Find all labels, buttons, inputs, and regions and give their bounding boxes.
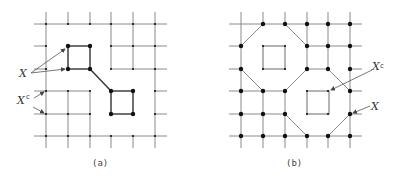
set-x-vertex <box>283 134 287 138</box>
set-x-vertex <box>109 112 113 116</box>
set-x-vertex <box>109 89 113 93</box>
set-x-vertex <box>283 112 287 116</box>
set-x-vertex <box>239 89 243 93</box>
set-x-vertex <box>326 67 330 71</box>
complement-vertex <box>262 68 264 70</box>
figure: X X c (a) <box>0 0 396 177</box>
complement-vertex <box>327 90 329 92</box>
grid-vertex <box>67 113 69 115</box>
grid-vertex <box>110 45 112 47</box>
grid-vertex <box>45 68 47 70</box>
set-x-vertex <box>348 67 352 71</box>
grid-vertex <box>45 135 47 137</box>
grid-vertex <box>89 113 91 115</box>
panel-b-annotations: X c X <box>331 60 384 113</box>
set-x-vertex <box>348 112 352 116</box>
set-x-vertex <box>348 22 352 26</box>
grid-vertex <box>89 135 91 137</box>
set-x-vertex <box>131 112 135 116</box>
grid-vertex <box>132 68 134 70</box>
grid-vertex <box>154 135 156 137</box>
set-x-vertex <box>88 44 92 48</box>
set-x-vertex <box>326 22 330 26</box>
grid-vertex <box>67 90 69 92</box>
panel-b-label-x: X <box>370 100 380 113</box>
grid-vertex <box>110 68 112 70</box>
set-x-vertex <box>261 22 265 26</box>
grid-vertex <box>132 45 134 47</box>
grid-vertex <box>110 23 112 25</box>
grid-vertex <box>154 113 156 115</box>
complement-vertex <box>327 113 329 115</box>
grid-vertex <box>67 135 69 137</box>
grid-vertex <box>45 113 47 115</box>
panel-a-caption: (a) <box>92 158 108 168</box>
complement-vertex <box>306 90 308 92</box>
set-x-vertex <box>348 89 352 93</box>
set-x-vertex <box>348 44 352 48</box>
panel-a-label-xc: X <box>16 94 26 107</box>
set-x-vertex <box>239 44 243 48</box>
set-x-vertex <box>131 89 135 93</box>
grid-vertex <box>67 23 69 25</box>
set-x-vertex <box>283 22 287 26</box>
grid-vertex <box>45 23 47 25</box>
set-x-vertex <box>239 112 243 116</box>
set-x-vertex <box>283 89 287 93</box>
set-x-vertex <box>305 134 309 138</box>
set-x-vertex <box>261 112 265 116</box>
set-x-vertex <box>239 67 243 71</box>
grid-vertex <box>45 45 47 47</box>
set-x-vertex <box>348 134 352 138</box>
complement-vertex <box>284 45 286 47</box>
panel-b: X c X (b) <box>229 12 384 168</box>
panel-a-annotations: X X c <box>16 49 65 113</box>
set-x-vertex <box>326 44 330 48</box>
grid-vertex <box>45 90 47 92</box>
complement-vertex <box>306 113 308 115</box>
set-x-vertex <box>66 44 70 48</box>
grid-vertex <box>154 68 156 70</box>
set-x-vertex <box>305 44 309 48</box>
grid-vertex <box>89 23 91 25</box>
panel-b-grid <box>229 12 362 148</box>
set-x-vertex <box>239 134 243 138</box>
grid-vertex <box>154 90 156 92</box>
set-x-vertex <box>88 67 92 71</box>
set-x-vertex <box>305 22 309 26</box>
set-x-vertex <box>326 134 330 138</box>
complement-vertex <box>284 68 286 70</box>
set-x-vertex <box>261 134 265 138</box>
grid-vertex <box>132 135 134 137</box>
set-x-vertex <box>66 67 70 71</box>
grid-vertex <box>132 23 134 25</box>
panel-a-label-xc-sup: c <box>26 93 30 101</box>
grid-vertex <box>154 45 156 47</box>
panel-a: X X c (a) <box>16 12 167 168</box>
panel-a-set-x <box>68 46 133 114</box>
grid-vertex <box>110 135 112 137</box>
set-x-vertex <box>261 89 265 93</box>
set-x-vertex <box>305 67 309 71</box>
panel-a-label-x: X <box>18 67 28 80</box>
panel-b-caption: (b) <box>286 158 302 168</box>
grid-vertex <box>154 23 156 25</box>
complement-vertex <box>262 45 264 47</box>
grid-vertex <box>89 90 91 92</box>
panel-b-label-xc-sup: c <box>380 62 384 70</box>
